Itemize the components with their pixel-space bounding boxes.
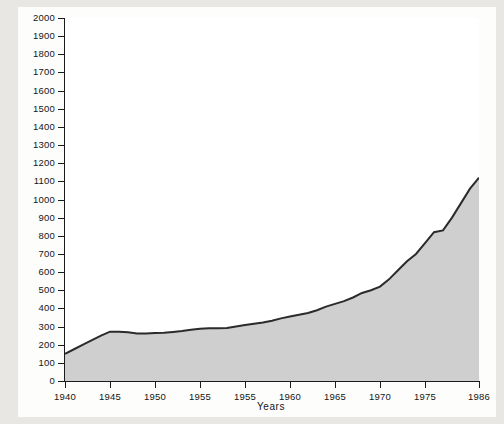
x-axis-tick: [245, 381, 246, 388]
y-axis-tick-label: 1400: [33, 122, 55, 132]
chart-card: Billions of Dollars 01002003004005006007…: [18, 7, 496, 417]
chart-plot-svg: [65, 18, 479, 381]
y-axis-tick: [58, 127, 65, 128]
y-axis-tick: [58, 72, 65, 73]
y-axis-tick: [58, 290, 65, 291]
y-axis-tick: [58, 200, 65, 201]
chart-page: Billions of Dollars 01002003004005006007…: [0, 0, 504, 424]
y-axis-tick-label: 400: [39, 304, 55, 314]
y-axis-tick: [58, 218, 65, 219]
x-axis-tick: [65, 381, 66, 388]
y-axis-tick-label: 1500: [33, 104, 55, 114]
y-axis-tick-label: 900: [39, 213, 55, 223]
y-axis-tick: [58, 381, 65, 382]
y-axis-tick-label: 1900: [33, 31, 55, 41]
x-axis-tick: [155, 381, 156, 388]
y-axis-tick-label: 1700: [33, 68, 55, 78]
y-axis-tick: [58, 109, 65, 110]
x-axis-title: Years: [64, 401, 478, 412]
y-axis-tick: [58, 327, 65, 328]
y-axis-tick-label: 1800: [33, 50, 55, 60]
x-axis-tick: [380, 381, 381, 388]
y-axis-tick-label: 2000: [33, 13, 55, 23]
y-axis-tick-label: 1600: [33, 86, 55, 96]
y-axis-tick-label: 200: [39, 340, 55, 350]
y-axis-tick: [58, 145, 65, 146]
y-axis-tick-label: 1000: [33, 195, 55, 205]
y-axis-tick: [58, 272, 65, 273]
y-axis-tick-label: 800: [39, 231, 55, 241]
y-axis-tick-label: 1200: [33, 158, 55, 168]
x-axis-tick: [110, 381, 111, 388]
x-axis-tick: [290, 381, 291, 388]
x-axis-tick: [425, 381, 426, 388]
y-axis-tick-label: 1100: [34, 177, 55, 187]
y-axis-tick-label: 700: [39, 249, 55, 259]
y-axis-tick: [58, 163, 65, 164]
y-axis-tick-label: 100: [39, 358, 55, 368]
y-axis-tick: [58, 181, 65, 182]
y-axis-tick-label: 1300: [33, 140, 55, 150]
x-axis-tick: [335, 381, 336, 388]
y-axis-tick: [58, 236, 65, 237]
area-chart-figure: Billions of Dollars 01002003004005006007…: [18, 7, 496, 417]
plot-area: 0100200300400500600700800900100011001200…: [64, 18, 479, 382]
y-axis-tick: [58, 36, 65, 37]
x-axis-tick: [479, 381, 480, 388]
y-axis-tick: [58, 308, 65, 309]
area-fill-polygon: [65, 178, 479, 381]
y-axis-tick-label: 500: [39, 286, 55, 296]
y-axis-tick: [58, 18, 65, 19]
y-axis-tick: [58, 91, 65, 92]
y-axis-tick: [58, 363, 65, 364]
y-axis-tick-label: 600: [39, 267, 55, 277]
y-axis-tick-label: 300: [39, 322, 55, 332]
y-axis-tick: [58, 254, 65, 255]
y-axis-tick: [58, 54, 65, 55]
y-axis-tick-label: 0: [50, 376, 55, 386]
x-axis-tick: [200, 381, 201, 388]
y-axis-tick: [58, 345, 65, 346]
